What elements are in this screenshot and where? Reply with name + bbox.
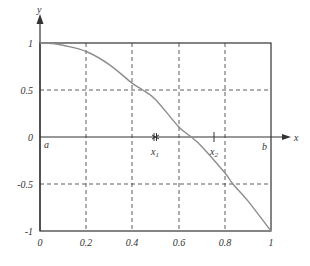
- x-axis-label: x: [293, 132, 299, 143]
- label-x2: x2: [209, 146, 218, 159]
- x-tick-label: 0.2: [80, 237, 93, 248]
- y-tick-label: -0.5: [17, 179, 33, 190]
- x-tick-label: 0.8: [219, 237, 232, 248]
- label-x1: x1: [150, 146, 159, 159]
- x-axis-arrow-icon: [282, 134, 291, 140]
- label-a: a: [44, 139, 49, 150]
- label-b: b: [262, 141, 267, 152]
- x-tick-labels: 0 0.2 0.4 0.6 0.8 1: [38, 237, 274, 248]
- y-tick-labels: 1 0.5 0 -0.5 -1: [17, 38, 33, 237]
- y-tick-label: 0.5: [21, 85, 34, 96]
- x-tick-label: 0: [38, 237, 43, 248]
- y-axis-label: y: [36, 4, 42, 15]
- x-tick-label: 1: [269, 237, 274, 248]
- y-tick-label: -1: [25, 226, 33, 237]
- y-tick-label: 1: [28, 38, 33, 49]
- y-axis: y: [36, 4, 44, 231]
- y-tick-label: 0: [28, 132, 33, 143]
- x-tick-label: 0.4: [126, 237, 139, 248]
- x-tick-label: 0.6: [173, 237, 186, 248]
- x-axis: x: [40, 132, 299, 143]
- chart: y x a b x1 x2 1 0.5 0 -0.5 -1 0 0.2 0.4 …: [0, 0, 310, 266]
- y-axis-arrow-icon: [37, 14, 44, 24]
